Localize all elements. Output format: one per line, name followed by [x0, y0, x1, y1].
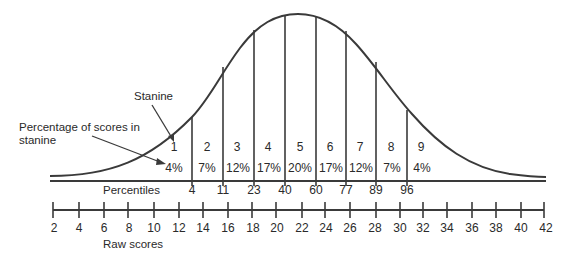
svg-text:4%: 4% — [165, 161, 183, 175]
stanine-percentages: 4% 7% 12% 17% 20% 17% 12% 7% 4% — [165, 161, 431, 175]
svg-text:32: 32 — [416, 221, 430, 235]
svg-text:7%: 7% — [383, 161, 401, 175]
svg-text:4%: 4% — [413, 161, 431, 175]
svg-text:26: 26 — [343, 221, 357, 235]
svg-text:30: 30 — [393, 221, 407, 235]
percentage-arrow — [92, 136, 160, 162]
svg-text:8: 8 — [388, 140, 395, 154]
svg-text:38: 38 — [489, 221, 503, 235]
svg-text:4: 4 — [189, 183, 196, 197]
svg-text:8: 8 — [126, 221, 133, 235]
svg-text:24: 24 — [319, 221, 333, 235]
svg-text:2: 2 — [204, 140, 211, 154]
svg-text:3: 3 — [234, 140, 241, 154]
svg-text:4: 4 — [265, 140, 272, 154]
svg-text:5: 5 — [297, 140, 304, 154]
svg-text:22: 22 — [295, 221, 309, 235]
svg-text:6: 6 — [101, 221, 108, 235]
raw-scores-label: Raw scores — [103, 238, 163, 250]
percentage-annotation-line1: Percentage of scores in — [19, 121, 140, 133]
svg-text:4: 4 — [76, 221, 83, 235]
svg-text:89: 89 — [369, 183, 383, 197]
svg-text:12: 12 — [172, 221, 186, 235]
svg-text:7: 7 — [357, 140, 364, 154]
percentiles-label: Percentiles — [103, 184, 160, 196]
svg-text:18: 18 — [246, 221, 260, 235]
svg-text:23: 23 — [247, 183, 261, 197]
svg-text:28: 28 — [368, 221, 382, 235]
svg-text:34: 34 — [440, 221, 454, 235]
stanine-arrow — [152, 105, 172, 138]
stanine-diagram: 1 2 3 4 5 6 7 8 9 4% 7% 12% 17% 20% 17% … — [0, 0, 567, 259]
stanine-numbers: 1 2 3 4 5 6 7 8 9 — [171, 140, 425, 154]
stanine-annotation: Stanine — [134, 90, 173, 102]
svg-text:16: 16 — [221, 221, 235, 235]
svg-text:40: 40 — [278, 183, 292, 197]
percentile-boundaries: 4 11 23 40 60 77 89 96 — [189, 183, 414, 197]
svg-text:20: 20 — [270, 221, 284, 235]
svg-text:40: 40 — [514, 221, 528, 235]
svg-text:17%: 17% — [319, 161, 343, 175]
svg-text:11: 11 — [217, 183, 230, 197]
svg-text:12%: 12% — [349, 161, 373, 175]
svg-text:60: 60 — [309, 183, 323, 197]
percentage-annotation-line2: stanine — [19, 134, 56, 146]
svg-text:14: 14 — [196, 221, 210, 235]
svg-text:10: 10 — [147, 221, 161, 235]
svg-text:2: 2 — [51, 221, 58, 235]
svg-text:20%: 20% — [288, 161, 312, 175]
svg-text:9: 9 — [418, 140, 425, 154]
svg-text:96: 96 — [400, 183, 414, 197]
svg-text:12%: 12% — [226, 161, 250, 175]
svg-text:36: 36 — [465, 221, 479, 235]
svg-text:7%: 7% — [198, 161, 216, 175]
svg-text:6: 6 — [327, 140, 334, 154]
svg-text:77: 77 — [339, 183, 353, 197]
svg-text:1: 1 — [171, 140, 178, 154]
svg-text:42: 42 — [539, 221, 553, 235]
svg-text:17%: 17% — [257, 161, 281, 175]
raw-score-tick-labels: 2 4 6 8 10 12 14 16 18 20 22 24 26 28 30… — [51, 221, 553, 235]
